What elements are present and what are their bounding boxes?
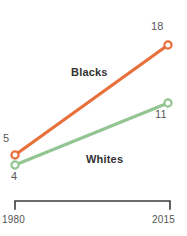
whites-start-value-label: 4 <box>11 170 17 182</box>
x-axis-start-label: 1980 <box>2 214 25 225</box>
blacks-start-value-label: 5 <box>3 132 9 144</box>
blacks-start-marker <box>11 151 18 158</box>
whites-end-marker <box>164 99 171 106</box>
blacks-end-value-label: 18 <box>151 20 164 32</box>
blacks-slope-line <box>15 45 168 155</box>
x-axis-end-label: 2015 <box>152 214 175 225</box>
whites-series-label: Whites <box>86 153 123 165</box>
x-axis-bracket <box>15 201 170 209</box>
whites-end-value-label: 11 <box>155 108 167 120</box>
blacks-end-marker <box>164 41 171 48</box>
blacks-series-label: Blacks <box>71 66 108 78</box>
slope-chart: 18 5 11 4 Blacks Whites 1980 2015 <box>0 0 187 236</box>
whites-start-marker <box>11 161 18 168</box>
